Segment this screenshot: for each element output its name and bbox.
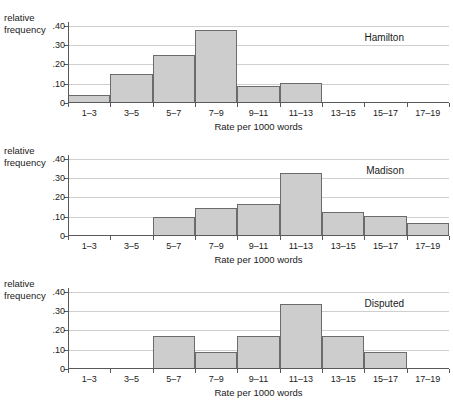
y-tick-label: .10 [52, 212, 65, 221]
histogram-bar [153, 336, 195, 369]
x-tick-label: 11–13 [289, 374, 313, 384]
x-tick-label: 1–3 [82, 241, 97, 251]
histogram-bar [322, 336, 364, 369]
x-tick-mark [153, 236, 154, 240]
x-tick-mark [153, 369, 154, 373]
histogram-bar [364, 352, 406, 369]
x-tick-mark [110, 103, 111, 107]
x-tick-mark [322, 369, 323, 373]
x-tick-mark [68, 369, 69, 373]
y-tick-label: .30 [52, 41, 65, 50]
x-tick-mark [364, 103, 365, 107]
histogram-bar [237, 86, 279, 103]
x-tick-label: 5–7 [166, 108, 181, 118]
x-tick-label: 7–9 [209, 108, 224, 118]
x-tick-label: 11–13 [289, 241, 313, 251]
y-tick-label: .40 [52, 154, 65, 163]
x-tick-mark [449, 103, 450, 107]
x-tick-mark [68, 236, 69, 240]
histogram-bar [153, 217, 195, 236]
y-tick-label: .30 [52, 174, 65, 183]
histogram-bar [153, 55, 195, 103]
y-tick-label: .20 [52, 326, 65, 335]
x-tick-mark [407, 236, 408, 240]
x-tick-label: 1–3 [82, 374, 97, 384]
histogram-bar [364, 216, 406, 236]
histogram-bar [195, 352, 237, 369]
y-tick-label: .10 [52, 345, 65, 354]
histogram-bar [237, 204, 279, 236]
histogram-bar [280, 304, 322, 369]
x-tick-label: 1–3 [82, 108, 97, 118]
x-tick-label: 15–17 [373, 374, 398, 384]
x-tick-mark [449, 369, 450, 373]
y-axis-line [68, 22, 69, 103]
x-tick-label: 9–11 [249, 241, 268, 251]
x-axis-title: Rate per 1000 words [68, 121, 449, 132]
histogram-figure: relativefrequency0.10.20.30.401–33–55–77… [0, 0, 453, 400]
histogram-bar [110, 74, 152, 103]
x-tick-mark [110, 236, 111, 240]
x-tick-label: 3–5 [124, 108, 139, 118]
x-tick-mark [280, 236, 281, 240]
y-tick-label: .20 [52, 193, 65, 202]
x-tick-mark [322, 236, 323, 240]
x-tick-label-group: 1–33–55–77–99–1111–1313–1515–1717–19 [68, 374, 449, 386]
y-tick-label: .20 [52, 60, 65, 69]
plot-area: 0.10.20.30.401–33–55–77–99–1111–1313–151… [68, 22, 449, 103]
series-title: Madison [366, 165, 404, 176]
x-tick-mark [195, 236, 196, 240]
histogram-bar [237, 336, 279, 369]
series-title: Disputed [365, 298, 404, 309]
x-tick-mark [153, 103, 154, 107]
x-tick-label: 7–9 [209, 241, 224, 251]
x-tick-mark [68, 103, 69, 107]
y-tick-label: .40 [52, 287, 65, 296]
x-tick-label: 17–19 [415, 108, 440, 118]
histogram-bar [322, 212, 364, 236]
x-tick-mark [364, 369, 365, 373]
histogram-bar [280, 83, 322, 103]
x-tick-label: 5–7 [166, 241, 181, 251]
y-tick-label: 0 [60, 232, 65, 241]
x-tick-mark [237, 369, 238, 373]
x-tick-mark [110, 369, 111, 373]
x-tick-mark [407, 103, 408, 107]
x-tick-label: 13–15 [331, 241, 356, 251]
x-tick-label: 3–5 [124, 374, 139, 384]
x-tick-mark [237, 236, 238, 240]
chart-panel-madison: relativefrequency0.10.20.30.401–33–55–77… [0, 133, 453, 266]
chart-panel-hamilton: relativefrequency0.10.20.30.401–33–55–77… [0, 0, 453, 133]
plot-area: 0.10.20.30.401–33–55–77–99–1111–1313–151… [68, 155, 449, 236]
chart-panel-disputed: relativefrequency0.10.20.30.401–33–55–77… [0, 266, 453, 399]
x-tick-mark [449, 236, 450, 240]
histogram-bar [195, 30, 237, 103]
y-axis-line [68, 288, 69, 369]
x-tick-mark [237, 103, 238, 107]
x-axis-title: Rate per 1000 words [68, 254, 449, 265]
x-tick-label: 7–9 [209, 374, 224, 384]
y-axis-line [68, 155, 69, 236]
x-tick-label-group: 1–33–55–77–99–1111–1313–1515–1717–19 [68, 108, 449, 120]
x-tick-mark [364, 236, 365, 240]
x-tick-mark [322, 103, 323, 107]
x-tick-mark [195, 103, 196, 107]
y-tick-label: .30 [52, 307, 65, 316]
plot-area: 0.10.20.30.401–33–55–77–99–1111–1313–151… [68, 288, 449, 369]
x-tick-label: 17–19 [415, 374, 440, 384]
x-tick-label: 17–19 [415, 241, 440, 251]
x-tick-mark [407, 369, 408, 373]
x-axis-title: Rate per 1000 words [68, 387, 449, 398]
histogram-bar [195, 208, 237, 236]
x-tick-label: 3–5 [124, 241, 139, 251]
x-tick-label: 15–17 [373, 241, 398, 251]
x-tick-label: 9–11 [249, 374, 268, 384]
x-tick-label: 11–13 [289, 108, 313, 118]
series-title: Hamilton [365, 32, 404, 43]
x-tick-label-group: 1–33–55–77–99–1111–1313–1515–1717–19 [68, 241, 449, 253]
x-tick-label: 5–7 [166, 374, 181, 384]
x-tick-mark [280, 369, 281, 373]
x-tick-label: 13–15 [331, 108, 356, 118]
y-tick-label: .40 [52, 21, 65, 30]
x-tick-mark [195, 369, 196, 373]
